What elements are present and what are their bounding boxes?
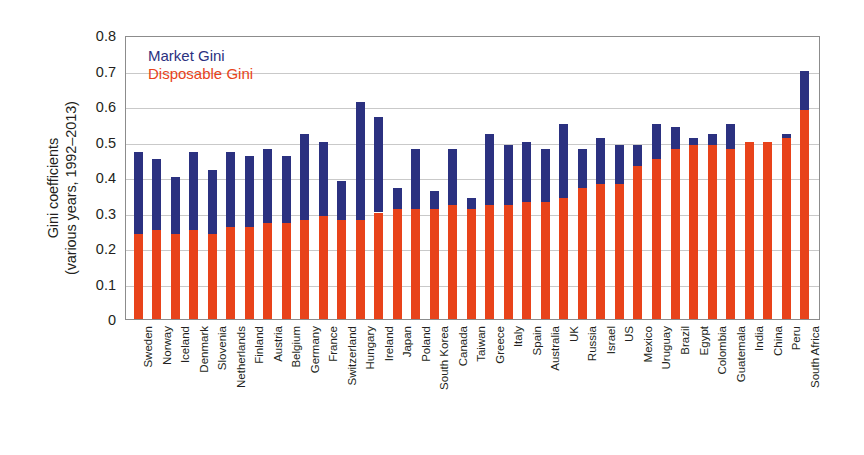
gini-coefficients-chart: Gini coefficients (various years, 1992–2… (0, 0, 864, 455)
x-axis-tick-label: India (753, 326, 765, 351)
x-axis-tick-label: Japan (401, 326, 413, 357)
x-axis-tick-label: Austria (272, 326, 284, 362)
x-axis-tick-label: Russia (586, 326, 598, 361)
x-axis-tick-label: Slovenia (216, 326, 228, 370)
x-axis-tick-label: Hungary (364, 326, 376, 369)
x-axis-tick-label: Switzerland (346, 326, 358, 385)
x-axis-tick-label: Netherlands (235, 326, 247, 388)
x-axis-tick-label: Italy (512, 326, 524, 347)
x-axis-tick-label: Peru (790, 326, 802, 350)
x-axis-tick-label: Mexico (642, 326, 654, 362)
x-axis-tick-label: Greece (494, 326, 506, 364)
x-axis-tick-label: Ireland (383, 326, 395, 361)
x-axis-tick-label: Sweden (142, 326, 154, 368)
x-axis-tick-label: Norway (161, 326, 173, 365)
x-axis-tick-label: US (623, 326, 635, 342)
x-axis-tick-label: Taiwan (475, 326, 487, 362)
x-axis-tick-label: Uruguay (660, 326, 672, 369)
x-axis-tick-label: Belgium (290, 326, 302, 368)
x-axis-tick-label: Germany (309, 326, 321, 373)
x-axis-tick-label: Denmark (198, 326, 210, 373)
x-axis-ticks: SwedenNorwayIcelandDenmarkSloveniaNether… (0, 0, 864, 455)
x-axis-tick-label: China (772, 326, 784, 356)
x-axis-tick-label: Israel (605, 326, 617, 354)
x-axis-tick-label: Guatemala (735, 326, 747, 382)
x-axis-tick-label: Egypt (698, 326, 710, 355)
x-axis-tick-label: France (327, 326, 339, 362)
x-axis-tick-label: UK (568, 326, 580, 342)
x-axis-tick-label: Finland (253, 326, 265, 364)
x-axis-tick-label: Australia (549, 326, 561, 371)
x-axis-tick-label: Iceland (179, 326, 191, 363)
x-axis-tick-label: South Africa (809, 326, 821, 388)
x-axis-tick-label: Canada (457, 326, 469, 366)
x-axis-tick-label: South Korea (438, 326, 450, 390)
x-axis-tick-label: Colombia (716, 326, 728, 375)
x-axis-tick-label: Spain (531, 326, 543, 355)
x-axis-tick-label: Brazil (679, 326, 691, 355)
x-axis-tick-label: Poland (420, 326, 432, 362)
